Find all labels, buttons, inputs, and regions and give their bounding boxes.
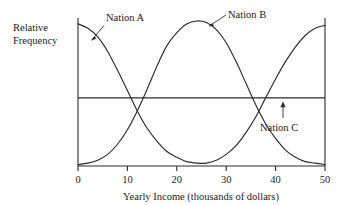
relative-frequency-income-chart: 0 10 20 30 40 50 Yearly Income (thousand… (0, 0, 348, 205)
x-tick-label-20: 20 (172, 174, 183, 185)
x-tick-label-40: 40 (270, 174, 281, 185)
x-tick-label-30: 30 (221, 174, 232, 185)
x-tick-label-0: 0 (75, 174, 80, 185)
y-axis-title-line-2: Frequency (13, 35, 58, 46)
annotation-nation-c-label: Nation C (260, 122, 298, 133)
x-axis-title: Yearly Income (thousands of dollars) (123, 191, 279, 203)
annotation-nation-a-label: Nation A (106, 12, 145, 23)
x-tick-label-50: 50 (320, 174, 331, 185)
annotation-nation-b-label: Nation B (228, 9, 266, 20)
y-axis-title-line-1: Relative (13, 22, 48, 33)
x-tick-label-10: 10 (122, 174, 133, 185)
